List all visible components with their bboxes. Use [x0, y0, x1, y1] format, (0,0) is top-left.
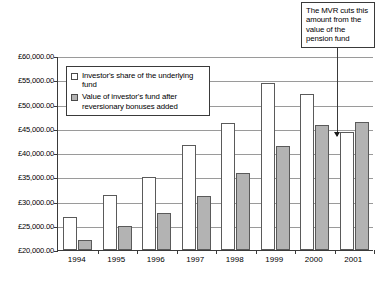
bar-1997-series-0 [182, 145, 196, 250]
legend-swatch-series-0 [71, 73, 78, 80]
bar-2000-series-1 [315, 125, 329, 250]
y-axis-tick [54, 81, 58, 82]
bar-1998-series-0 [221, 123, 235, 250]
y-axis-tick-label: £40,000.00 [0, 150, 54, 158]
x-axis-tick-label: 1999 [255, 255, 295, 265]
bar-1995-series-0 [103, 195, 117, 250]
bar-1994-series-1 [78, 240, 92, 250]
annotation-leader-line [337, 47, 338, 136]
x-axis-tick [177, 250, 178, 254]
bar-group [340, 57, 369, 250]
x-axis-tick [335, 250, 336, 254]
legend-item: Value of investor's fund after reversion… [71, 92, 204, 110]
bar-1999-series-0 [261, 83, 275, 250]
y-axis-tick-label: £20,000.00 [0, 247, 54, 255]
y-axis-tick [54, 154, 58, 155]
bar-chart: £20,000.00£25,000.00£30,000.00£35,000.00… [0, 0, 380, 284]
y-axis-tick-label: £55,000.00 [0, 77, 54, 85]
x-axis-tick [98, 250, 99, 254]
legend-item: Investor's share of the underlying fund [71, 71, 204, 89]
bar-1997-series-1 [197, 196, 211, 250]
y-axis-tick-label: £25,000.00 [0, 223, 54, 231]
bar-1999-series-1 [276, 146, 290, 250]
bar-1995-series-1 [118, 226, 132, 250]
y-axis-tick [54, 106, 58, 107]
bar-group [300, 57, 329, 250]
y-axis-tick [54, 57, 58, 58]
bar-1998-series-1 [236, 173, 250, 250]
x-axis-tick-label: 1995 [97, 255, 137, 265]
y-axis-tick [54, 251, 58, 252]
x-axis-tick [137, 250, 138, 254]
bar-group [221, 57, 250, 250]
bar-1996-series-0 [142, 177, 156, 250]
bar-2001-series-0 [340, 132, 354, 250]
y-axis-tick [54, 203, 58, 204]
annotation-arrow-icon [334, 132, 340, 137]
x-axis-tick-label: 2000 [294, 255, 334, 265]
x-axis-tick-label: 1994 [57, 255, 97, 265]
x-axis-tick-label: 2001 [334, 255, 374, 265]
y-axis-tick-label: £45,000.00 [0, 126, 54, 134]
x-axis-tick-label: 1996 [136, 255, 176, 265]
x-axis-tick [295, 250, 296, 254]
y-axis-tick [54, 178, 58, 179]
bar-2000-series-0 [300, 94, 314, 250]
y-axis-tick-label: £60,000.00 [0, 53, 54, 61]
x-axis-tick [256, 250, 257, 254]
y-axis-tick-label: £30,000.00 [0, 199, 54, 207]
x-axis-tick-label: 1997 [176, 255, 216, 265]
legend-label-series-0: Investor's share of the underlying fund [82, 71, 204, 89]
legend-swatch-series-1 [71, 94, 78, 101]
legend-label-series-1: Value of investor's fund after reversion… [82, 92, 204, 110]
y-axis-tick-label: £35,000.00 [0, 174, 54, 182]
y-axis-tick-label: £50,000.00 [0, 102, 54, 110]
x-axis-tick [374, 250, 375, 254]
y-axis-tick [54, 130, 58, 131]
x-axis-tick [216, 250, 217, 254]
bar-1996-series-1 [157, 213, 171, 250]
annotation-callout: The MVR cuts this amount from the value … [301, 2, 375, 48]
annotation-text: The MVR cuts this amount from the value … [306, 6, 368, 43]
chart-legend: Investor's share of the underlying fund … [66, 66, 210, 116]
bar-2001-series-1 [355, 122, 369, 250]
x-axis-tick-label: 1998 [215, 255, 255, 265]
bar-group [261, 57, 290, 250]
bar-1994-series-0 [63, 217, 77, 250]
y-axis-tick [54, 227, 58, 228]
